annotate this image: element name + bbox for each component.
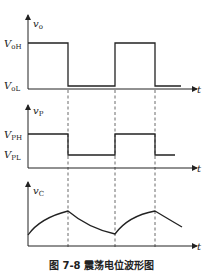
svg-text:VoL: VoL xyxy=(4,80,20,93)
svg-text:VPH: VPH xyxy=(4,129,22,142)
svg-text:VPL: VPL xyxy=(4,149,21,162)
svg-text:vC: vC xyxy=(33,185,44,198)
waveform-figure: vo VoH VoL t vP VPH VPL t vC t xyxy=(0,0,203,274)
svg-text:vP: vP xyxy=(33,105,44,118)
panel-vo: vo VoH VoL t xyxy=(4,15,202,95)
svg-text:VoH: VoH xyxy=(4,38,22,51)
svg-text:t: t xyxy=(197,241,202,252)
svg-text:vo: vo xyxy=(33,18,43,31)
panel-vp: vP VPH VPL t xyxy=(4,105,202,174)
svg-text:t: t xyxy=(197,163,202,174)
svg-text:t: t xyxy=(197,84,202,95)
vc-waveform xyxy=(28,211,182,235)
figure-caption: 图 7-8 震荡电位波形图 xyxy=(0,257,203,272)
vo-waveform xyxy=(28,43,181,86)
vp-waveform xyxy=(28,134,175,155)
dashed-guides xyxy=(68,90,155,248)
